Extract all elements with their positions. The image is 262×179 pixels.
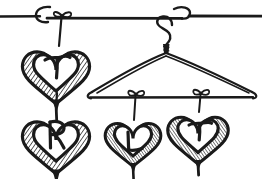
- string-rod-to-heart-t: [59, 17, 62, 46]
- horizontal-rod: [0, 16, 262, 18]
- rod-hook-left-icon: [36, 7, 50, 22]
- string-heart-t-to-heart-r: [56, 93, 57, 107]
- illustration-canvas: T R L T Hand-drawn heart ornaments hangi…: [0, 0, 262, 179]
- heart-ornaments-sketch: [0, 0, 262, 179]
- heart-ornament-r: [22, 122, 89, 179]
- string-hanger-to-heart-l: [134, 96, 136, 120]
- rod-hook-right-icon: [174, 7, 190, 18]
- wire-coat-hanger: [88, 16, 257, 98]
- bow-hanger-heart-l: [128, 91, 144, 96]
- heart-ornament-t-right: [168, 117, 228, 175]
- bow-hanger-heart-t: [193, 90, 209, 95]
